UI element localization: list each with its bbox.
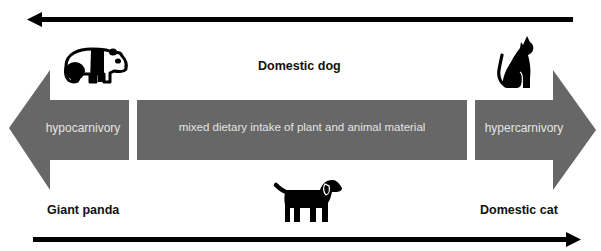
giant-panda-label: Giant panda bbox=[47, 203, 119, 217]
hypocarnivory-label: hypocarnivory bbox=[40, 121, 126, 135]
cat-icon bbox=[497, 34, 537, 90]
dog-icon bbox=[272, 178, 344, 224]
domestic-dog-label: Domestic dog bbox=[258, 59, 341, 73]
hypercarnivory-label: hypercarnivory bbox=[478, 121, 570, 135]
mixed-diet-label: mixed dietary intake of plant and animal… bbox=[137, 121, 467, 133]
panda-icon bbox=[58, 44, 130, 86]
domestic-cat-label: Domestic cat bbox=[480, 203, 558, 217]
